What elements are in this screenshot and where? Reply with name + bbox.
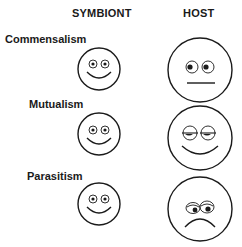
row-label-mutualism: Mutualism	[29, 98, 83, 110]
host-content-face-icon	[166, 104, 234, 172]
symbiont-column-header: SYMBIONT	[72, 7, 132, 19]
symbiont-happy-face-icon	[76, 111, 122, 157]
symbiont-happy-face-icon	[76, 181, 122, 227]
row-label-commensalism: Commensalism	[5, 33, 86, 45]
host-sad-face-icon	[166, 175, 234, 243]
row-label-parasitism: Parasitism	[27, 170, 83, 182]
host-column-header: HOST	[183, 7, 214, 19]
host-neutral-face-icon	[166, 36, 234, 104]
symbiont-happy-face-icon	[76, 46, 122, 92]
